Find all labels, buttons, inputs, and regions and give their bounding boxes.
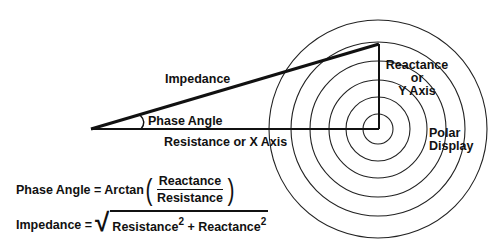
reactance-axis-label: Reactance or Y Axis: [382, 59, 452, 98]
impedance-formula: Impedance = √ Resistance2 + Reactance2: [16, 210, 268, 234]
reactance-over-resistance-fraction: Reactance Resistance: [155, 174, 225, 205]
fraction-numerator: Reactance: [157, 174, 224, 190]
polar-display-label: Polar Display: [429, 127, 473, 153]
reactance-term: Reactance: [198, 220, 261, 234]
phase-angle-formula-lhs: Phase Angle = Arctan: [16, 183, 144, 197]
phase-angle-label: Phase Angle: [148, 115, 223, 128]
resistance-axis-label: Resistance or X Axis: [164, 136, 287, 149]
phase-angle-formula: Phase Angle = Arctan ( Reactance Resista…: [16, 174, 236, 205]
resistance-term: Resistance: [112, 220, 178, 234]
close-paren: ): [227, 175, 234, 205]
impedance-label: Impedance: [165, 73, 230, 86]
radicand: Resistance2 + Reactance2: [110, 210, 268, 234]
fraction-denominator: Resistance: [155, 190, 225, 205]
plus-sign: +: [184, 220, 198, 234]
square-root: √ Resistance2 + Reactance2: [95, 210, 268, 234]
open-paren: (: [145, 175, 152, 205]
impedance-formula-lhs: Impedance =: [16, 218, 92, 232]
impedance-hypotenuse-line: [91, 44, 379, 129]
radical-sign-icon: √: [95, 210, 109, 234]
reactance-label-line-3: Y Axis: [382, 85, 452, 98]
phase-angle-arc: [140, 115, 144, 129]
polar-label-line-2: Display: [429, 140, 473, 153]
reactance-exponent: 2: [261, 216, 267, 227]
